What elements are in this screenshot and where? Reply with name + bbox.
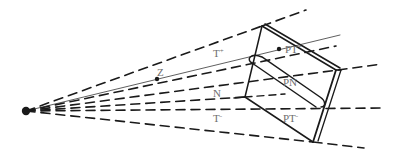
- label-pt-plus: PT+: [285, 44, 302, 55]
- apex-point: [22, 107, 30, 115]
- perspective-diagram: [0, 0, 400, 157]
- pt-plus-point: [277, 47, 281, 51]
- ray-upper-mid-ext: [338, 64, 382, 70]
- ray-bottom-outer: [26, 111, 313, 142]
- label-t-minus: T-: [213, 113, 222, 124]
- box-edge-front-b: [318, 70, 341, 141]
- ray-n-inner: [245, 94, 285, 97]
- label-pn: PN: [283, 77, 297, 88]
- ray-bottom-extension: [313, 142, 364, 148]
- label-n: N: [213, 88, 221, 99]
- box-edge-back-vertical: [245, 26, 262, 97]
- box-edge-top-double-b: [265, 24, 340, 68]
- label-pt-minus: PT-: [283, 113, 298, 124]
- label-t-plus: T+: [213, 48, 224, 59]
- label-z: Z: [157, 67, 164, 78]
- inner-edge-n: [234, 97, 245, 98]
- ray-top-extension: [262, 10, 306, 26]
